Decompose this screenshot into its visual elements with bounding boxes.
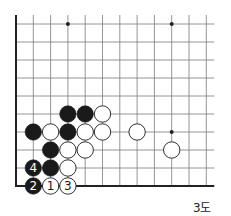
white-stone bbox=[94, 124, 110, 140]
black-stone-move-2: 2 bbox=[25, 178, 41, 194]
white-stone bbox=[129, 124, 145, 140]
star-point-icon bbox=[170, 130, 174, 134]
white-stone bbox=[164, 142, 180, 158]
black-stone bbox=[77, 106, 93, 122]
white-stone bbox=[60, 142, 76, 158]
black-stone bbox=[42, 160, 58, 176]
move-number: 2 bbox=[29, 179, 37, 193]
white-stone-move-3: 3 bbox=[60, 178, 76, 194]
black-stone bbox=[60, 124, 76, 140]
go-board-diagram: 4213 bbox=[0, 0, 231, 216]
move-number: 4 bbox=[29, 161, 37, 175]
black-stone-move-4: 4 bbox=[25, 160, 41, 176]
black-stone bbox=[42, 142, 58, 158]
diagram-caption: 3도 bbox=[193, 198, 211, 215]
board-grid bbox=[15, 15, 214, 187]
white-stone bbox=[77, 124, 93, 140]
white-stone bbox=[94, 106, 110, 122]
black-stone bbox=[25, 124, 41, 140]
star-point-icon bbox=[170, 22, 174, 26]
white-stone bbox=[77, 142, 93, 158]
move-number: 3 bbox=[64, 179, 72, 193]
white-stone-move-1: 1 bbox=[42, 178, 58, 194]
star-point-icon bbox=[66, 22, 70, 26]
white-stone bbox=[42, 124, 58, 140]
move-number: 1 bbox=[47, 179, 55, 193]
white-stone bbox=[60, 160, 76, 176]
black-stone bbox=[60, 106, 76, 122]
